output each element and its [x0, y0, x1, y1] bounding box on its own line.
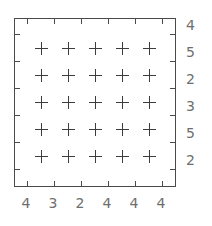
tick-left-4 — [14, 142, 20, 143]
tick-right-4 — [170, 142, 176, 143]
tick-right-3 — [170, 115, 176, 116]
tick-bottom-5 — [162, 181, 163, 187]
tick-bottom-2 — [81, 181, 82, 187]
y-axis-tick-label-2: 2 — [186, 72, 195, 86]
x-axis-tick-label-1: 3 — [49, 196, 58, 210]
y-axis-tick-label-0: 4 — [186, 18, 195, 32]
y-axis-tick-label-1: 5 — [186, 45, 195, 59]
plot-figure: 452352432444 — [0, 0, 212, 226]
x-axis-tick-label-4: 4 — [130, 196, 139, 210]
y-axis-tick-label-3: 3 — [186, 99, 195, 113]
x-axis-tick-label-3: 4 — [103, 196, 112, 210]
tick-top-0 — [27, 18, 28, 24]
tick-left-1 — [14, 61, 20, 62]
tick-top-5 — [162, 18, 163, 24]
x-axis-tick-label-5: 4 — [157, 196, 166, 210]
tick-left-2 — [14, 88, 20, 89]
tick-top-4 — [135, 18, 136, 24]
tick-bottom-3 — [108, 181, 109, 187]
tick-right-5 — [170, 169, 176, 170]
tick-right-2 — [170, 88, 176, 89]
tick-bottom-1 — [54, 181, 55, 187]
tick-right-1 — [170, 61, 176, 62]
tick-left-3 — [14, 115, 20, 116]
tick-top-1 — [54, 18, 55, 24]
tick-bottom-4 — [135, 181, 136, 187]
tick-top-2 — [81, 18, 82, 24]
tick-top-3 — [108, 18, 109, 24]
tick-bottom-0 — [27, 181, 28, 187]
x-axis-tick-label-2: 2 — [76, 196, 85, 210]
y-axis-tick-label-4: 5 — [186, 126, 195, 140]
tick-left-0 — [14, 34, 20, 35]
tick-left-5 — [14, 169, 20, 170]
y-axis-tick-label-5: 2 — [186, 153, 195, 167]
axes-frame — [14, 18, 176, 187]
tick-right-0 — [170, 34, 176, 35]
x-axis-tick-label-0: 4 — [22, 196, 31, 210]
